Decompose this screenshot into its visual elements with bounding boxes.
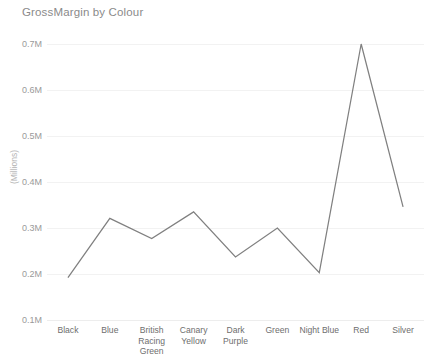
y-axis-tick-label: 0.1M: [22, 315, 42, 325]
y-axis-title: (Millions): [9, 137, 19, 197]
y-axis-tick-label: 0.4M: [22, 177, 42, 187]
x-axis-tick-label: Silver: [377, 325, 429, 336]
y-axis-tick-label: 0.5M: [22, 131, 42, 141]
y-axis-tick-label: 0.7M: [22, 39, 42, 49]
y-axis-tick-label: 0.6M: [22, 85, 42, 95]
y-axis-tick-label: 0.2M: [22, 269, 42, 279]
gridlines: [47, 45, 424, 321]
plot-area: [47, 44, 424, 320]
chart-card: GrossMargin by Colour 0.7M0.6M0.5M0.4M0.…: [0, 0, 433, 359]
line-chart-svg: [47, 44, 424, 320]
series-line-grossmargin: [68, 44, 403, 278]
y-axis-tick-label: 0.3M: [22, 223, 42, 233]
y-axis-tick-group: 0.7M0.6M0.5M0.4M0.3M0.2M0.1M: [0, 0, 42, 359]
x-axis-tick-group: BlackBlueBritishRacingGreenCanaryYellowD…: [47, 325, 424, 359]
